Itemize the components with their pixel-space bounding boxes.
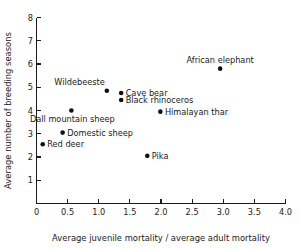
x-tick-label: 0 (34, 207, 39, 217)
data-point (69, 108, 74, 113)
point-label: Pika (152, 151, 169, 161)
y-tick-label: 1 (28, 175, 33, 185)
point-label: Himalayan thar (165, 107, 229, 117)
x-axis-title: Average juvenile mortality / average adu… (52, 233, 270, 243)
point-label: Dall mountain sheep (30, 114, 115, 124)
data-point (119, 91, 124, 96)
x-tick-label: 4.0 (279, 207, 292, 217)
y-tick-label: 3 (28, 129, 33, 139)
x-tick-label: 0.5 (61, 207, 74, 217)
point-label: Wildebeeste (54, 77, 104, 87)
scatter-plot-figure: 1234567800.51.01.52.02.53.03.54.0 Africa… (0, 0, 298, 249)
y-tick-label: 8 (28, 13, 33, 23)
y-tick-label: 5 (28, 82, 33, 92)
x-tick-label: 2.0 (154, 207, 167, 217)
data-point (105, 88, 110, 93)
y-tick-label: 6 (28, 59, 33, 69)
data-point (40, 142, 45, 147)
y-tick-label: 7 (28, 36, 33, 46)
data-point (145, 154, 150, 159)
point-label: Domestic sheep (67, 128, 133, 138)
point-label: Black rhinoceros (126, 95, 194, 105)
plot-canvas: 1234567800.51.01.52.02.53.03.54.0 Africa… (0, 0, 298, 249)
point-label: African elephant (186, 55, 254, 65)
x-tick-label: 1.5 (123, 207, 136, 217)
x-tick-label: 2.5 (186, 207, 199, 217)
point-label: Red deer (47, 139, 84, 149)
x-tick-label: 3.0 (217, 207, 230, 217)
data-point (119, 98, 124, 103)
data-point (158, 109, 163, 114)
x-tick-label: 1.0 (92, 207, 105, 217)
y-axis-title: Average number of breeding seasons (3, 32, 13, 189)
y-tick-label: 2 (28, 152, 33, 162)
data-point (60, 130, 65, 135)
x-tick-label: 3.5 (248, 207, 261, 217)
data-point (218, 66, 223, 71)
